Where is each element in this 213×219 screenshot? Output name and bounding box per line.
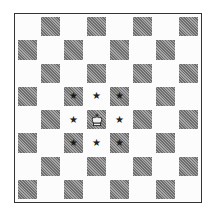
square-r7-c1 [39, 178, 62, 201]
square-r4-c4: ★ [108, 108, 131, 131]
square-r6-c0 [16, 155, 39, 178]
chessboard: ★★★★★★★★ [14, 13, 202, 203]
square-r4-c7 [177, 108, 200, 131]
square-r5-c6 [154, 131, 177, 154]
square-r6-c6 [154, 155, 177, 178]
square-r6-c2 [62, 155, 85, 178]
star-marker-icon: ★ [69, 138, 78, 148]
square-r2-c1 [39, 62, 62, 85]
square-r2-c2 [62, 62, 85, 85]
square-r6-c1 [39, 155, 62, 178]
square-r5-c5 [131, 131, 154, 154]
square-r2-c7 [177, 62, 200, 85]
star-marker-icon: ★ [69, 91, 78, 101]
square-r0-c4 [108, 15, 131, 38]
square-r1-c2 [62, 38, 85, 61]
square-r7-c0 [16, 178, 39, 201]
square-r0-c1 [39, 15, 62, 38]
square-r3-c3: ★ [85, 85, 108, 108]
square-r3-c7 [177, 85, 200, 108]
square-r7-c5 [131, 178, 154, 201]
square-r3-c6 [154, 85, 177, 108]
white-king-icon [89, 112, 105, 128]
square-r0-c5 [131, 15, 154, 38]
square-r1-c1 [39, 38, 62, 61]
square-r7-c3 [85, 178, 108, 201]
square-r1-c3 [85, 38, 108, 61]
square-r4-c1 [39, 108, 62, 131]
square-r1-c7 [177, 38, 200, 61]
square-r4-c2: ★ [62, 108, 85, 131]
square-r2-c0 [16, 62, 39, 85]
square-r1-c4 [108, 38, 131, 61]
square-r2-c3 [85, 62, 108, 85]
square-r6-c4 [108, 155, 131, 178]
square-r5-c7 [177, 131, 200, 154]
square-r6-c7 [177, 155, 200, 178]
square-r5-c0 [16, 131, 39, 154]
square-r7-c4 [108, 178, 131, 201]
square-r7-c2 [62, 178, 85, 201]
square-r5-c3: ★ [85, 131, 108, 154]
square-r2-c5 [131, 62, 154, 85]
square-r5-c1 [39, 131, 62, 154]
square-r6-c5 [131, 155, 154, 178]
star-marker-icon: ★ [69, 115, 78, 125]
square-r6-c3 [85, 155, 108, 178]
square-r0-c3 [85, 15, 108, 38]
star-marker-icon: ★ [92, 138, 101, 148]
square-r4-c0 [16, 108, 39, 131]
square-r4-c3 [85, 108, 108, 131]
star-marker-icon: ★ [115, 138, 124, 148]
square-r1-c0 [16, 38, 39, 61]
square-r5-c4: ★ [108, 131, 131, 154]
square-r4-c5 [131, 108, 154, 131]
square-r7-c6 [154, 178, 177, 201]
square-r3-c0 [16, 85, 39, 108]
square-r3-c4: ★ [108, 85, 131, 108]
square-r0-c2 [62, 15, 85, 38]
square-r2-c4 [108, 62, 131, 85]
square-r5-c2: ★ [62, 131, 85, 154]
square-r4-c6 [154, 108, 177, 131]
star-marker-icon: ★ [115, 91, 124, 101]
square-r2-c6 [154, 62, 177, 85]
square-r3-c2: ★ [62, 85, 85, 108]
square-r1-c6 [154, 38, 177, 61]
square-r3-c5 [131, 85, 154, 108]
square-r3-c1 [39, 85, 62, 108]
square-r1-c5 [131, 38, 154, 61]
star-marker-icon: ★ [92, 91, 101, 101]
square-r0-c7 [177, 15, 200, 38]
square-r0-c6 [154, 15, 177, 38]
square-r0-c0 [16, 15, 39, 38]
square-r7-c7 [177, 178, 200, 201]
star-marker-icon: ★ [115, 115, 124, 125]
